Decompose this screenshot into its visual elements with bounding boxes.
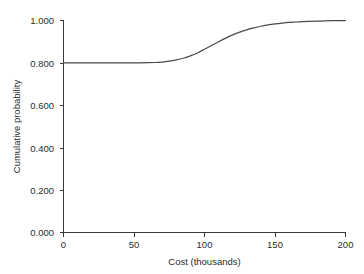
axis-lines <box>64 21 346 233</box>
y-tick-marks <box>60 21 64 233</box>
x-tick-label-4: 200 <box>338 239 354 250</box>
cumulative-probability-curve <box>64 21 346 63</box>
chart-plot-area: 0.000 0.200 0.400 0.600 0.800 1.000 0 50… <box>0 0 364 274</box>
x-tick-label-1: 50 <box>129 239 140 250</box>
y-axis-title: Cumulative probability <box>11 80 22 174</box>
y-tick-label-5: 1.000 <box>30 15 54 26</box>
chart-figure: 0.000 0.200 0.400 0.600 0.800 1.000 0 50… <box>0 0 364 274</box>
x-tick-label-2: 100 <box>197 239 213 250</box>
y-tick-label-0: 0.000 <box>30 227 54 238</box>
y-tick-label-2: 0.400 <box>30 143 54 154</box>
y-tick-label-1: 0.200 <box>30 185 54 196</box>
y-tick-label-3: 0.600 <box>30 100 54 111</box>
x-tick-label-0: 0 <box>61 239 66 250</box>
x-axis-title: Cost (thousands) <box>168 256 240 267</box>
x-tick-label-3: 150 <box>267 239 283 250</box>
x-tick-marks <box>64 233 346 237</box>
y-tick-label-4: 0.800 <box>30 58 54 69</box>
